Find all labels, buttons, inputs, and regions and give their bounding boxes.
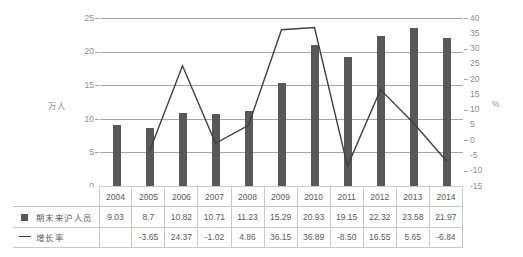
y-tick-left-10: 10 [68, 115, 94, 123]
tick-right-20 [464, 79, 468, 80]
line-marker-icon [19, 236, 31, 237]
legend-label: 增长率 [36, 233, 64, 243]
table-year-2006: 2006 [165, 187, 198, 207]
y-tick-right-35: 35 [470, 29, 496, 37]
y-tick-left-15: 15 [68, 81, 94, 89]
table-cell-2004 [99, 227, 132, 247]
growth-rate-line [150, 28, 447, 167]
y-tick-right-25: 25 [470, 59, 496, 67]
y-tick-right-10: 10 [470, 105, 496, 113]
table-cell-2011: 19.15 [330, 207, 363, 227]
chart-root: 万人 % 25 20 15 10 5 0 40 35 30 25 20 15 1… [0, 0, 523, 257]
y-tick-left-20: 20 [68, 47, 94, 55]
tick-right-neg10 [464, 171, 468, 172]
tick-left-20 [95, 52, 99, 53]
square-marker-icon [21, 214, 28, 221]
table-cell-2006: 24.37 [165, 227, 198, 247]
y-tick-right-5: 5 [470, 120, 496, 128]
table-cell-2012: 22.32 [363, 207, 396, 227]
table-cell-2010: 36.89 [297, 227, 330, 247]
table-cell-2009: 15.29 [264, 207, 297, 227]
table-cell-2008: 11.23 [231, 207, 264, 227]
table-year-2007: 2007 [198, 187, 231, 207]
legend-label: 期末来沪人员 [36, 212, 92, 222]
table-year-2014: 2014 [429, 187, 462, 207]
table-cell-2008: 4.86 [231, 227, 264, 247]
table-cell-2013: 23.58 [396, 207, 429, 227]
legend-cell-line: 增长率 [13, 227, 99, 247]
legend-cell-bar: 期末来沪人员 [13, 207, 99, 227]
tick-left-5 [95, 152, 99, 153]
table-cell-2006: 10.82 [165, 207, 198, 227]
table-cell-2007: -1.02 [198, 227, 231, 247]
table-cell-2007: 10.71 [198, 207, 231, 227]
table-cell-2012: 16.55 [363, 227, 396, 247]
table-cell-2011: -8.50 [330, 227, 363, 247]
y-tick-right-neg15: -15 [470, 182, 496, 190]
table-year-2012: 2012 [363, 187, 396, 207]
y-tick-right-neg5: -5 [470, 151, 496, 159]
y-tick-right-40: 40 [470, 14, 496, 22]
table-year-2009: 2009 [264, 187, 297, 207]
table-row: 期末来沪人员9.038.710.8210.7111.2315.2920.9319… [13, 207, 463, 227]
tick-right-0 [464, 140, 468, 141]
table-year-2010: 2010 [297, 187, 330, 207]
table-cell-2014: 21.97 [429, 207, 462, 227]
y-tick-right-20: 20 [470, 75, 496, 83]
table-year-2011: 2011 [330, 187, 363, 207]
table-cell-2013: 5.65 [396, 227, 429, 247]
y-axis-left-title: 万人 [42, 99, 72, 111]
y-tick-left-5: 5 [68, 148, 94, 156]
table-cell-2009: 36.15 [264, 227, 297, 247]
table-cell-2014: -6.84 [429, 227, 462, 247]
tick-left-25 [95, 18, 99, 19]
y-tick-right-0: 0 [470, 136, 496, 144]
table-cell-2010: 20.93 [297, 207, 330, 227]
y-tick-left-25: 25 [68, 14, 94, 22]
plot-area: 万人 % 25 20 15 10 5 0 40 35 30 25 20 15 1… [0, 0, 523, 190]
table-cell-2005: 8.7 [132, 207, 165, 227]
table-cell-2005: -3.65 [132, 227, 165, 247]
tick-right-40 [464, 18, 468, 19]
tick-left-15 [95, 85, 99, 86]
table-year-2013: 2013 [396, 187, 429, 207]
table-corner-cell [13, 187, 99, 207]
data-table: 2004200520062007200820092010201120122013… [13, 186, 463, 248]
table-year-2008: 2008 [231, 187, 264, 207]
table-cell-2004: 9.03 [99, 207, 132, 227]
table-row-years: 2004200520062007200820092010201120122013… [13, 187, 463, 207]
tick-left-10 [95, 119, 99, 120]
tick-right-10 [464, 110, 468, 111]
y-tick-right-30: 30 [470, 44, 496, 52]
y-tick-right-neg10: -10 [470, 166, 496, 174]
table-year-2005: 2005 [132, 187, 165, 207]
tick-right-30 [464, 49, 468, 50]
y-tick-right-15: 15 [470, 90, 496, 98]
line-series [100, 18, 463, 186]
table-year-2004: 2004 [99, 187, 132, 207]
table-row: 增长率-3.6524.37-1.024.8636.1536.89-8.5016.… [13, 227, 463, 247]
